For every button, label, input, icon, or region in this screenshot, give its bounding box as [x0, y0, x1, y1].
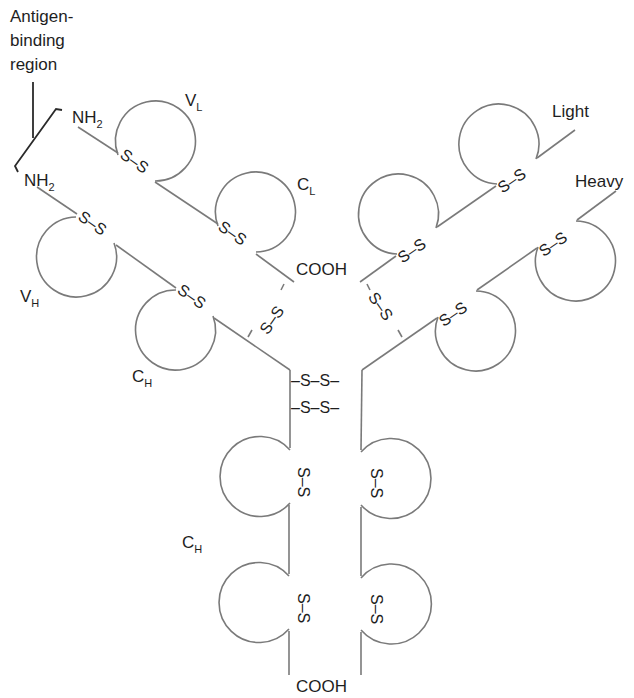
hinge-disulfide-2: –S–S– — [291, 399, 339, 416]
disulfide-vh-left: S–S — [75, 207, 110, 238]
disulfide-ch2-left: S–S — [295, 467, 312, 497]
cl-label: CL — [297, 175, 315, 197]
disulfide-ch3-right: S–S — [368, 594, 385, 624]
left-light-chain: NH2 S–S VL S–S CL — [72, 91, 315, 282]
hinge-disulfide-1: –S–S– — [291, 372, 339, 389]
disulfide-cl-right: S–S — [395, 235, 430, 266]
interchain-disulfide-right: S–S — [365, 284, 402, 337]
cooh-light-label: COOH — [296, 260, 347, 279]
disulfide-vl-right: S–S — [495, 165, 530, 196]
ch1-label: CH — [132, 367, 152, 389]
right-light-chain: Light S–S S–S — [359, 102, 590, 282]
antigen-binding-label-line2: binding — [10, 31, 65, 50]
cooh-heavy-label: COOH — [296, 677, 347, 696]
antibody-diagram: Antigen- binding region NH2 S–S VL S–S C… — [0, 0, 634, 698]
antigen-binding-label-line3: region — [10, 55, 57, 74]
interchain-disulfide-left: S–S — [248, 284, 287, 337]
antigen-binding-bracket — [15, 82, 62, 172]
heavy-label: Heavy — [575, 172, 624, 191]
light-label: Light — [552, 102, 589, 121]
nh2-label-light: NH2 — [72, 108, 103, 130]
svg-text:S–S: S–S — [256, 303, 287, 338]
vh-label: VH — [20, 287, 39, 309]
disulfide-vh-right: S–S — [536, 229, 571, 260]
disulfide-vl-left: S–S — [117, 145, 152, 176]
disulfide-ch1-right: S–S — [436, 299, 471, 330]
nh2-label-heavy: NH2 — [24, 171, 55, 193]
vl-label: VL — [185, 91, 202, 113]
disulfide-ch3-left: S–S — [295, 593, 312, 623]
disulfide-ch1-left: S–S — [175, 281, 210, 312]
svg-text:S–S: S–S — [365, 289, 396, 324]
disulfide-ch2-right: S–S — [368, 468, 385, 498]
antigen-binding-label-line1: Antigen- — [10, 7, 73, 26]
left-heavy-chain: NH2 S–S VH S–S CH S–S S–S CH — [20, 171, 312, 675]
hinge-disulfides: –S–S– –S–S– — [291, 372, 339, 416]
disulfide-cl-left: S–S — [215, 217, 250, 248]
ch23-label: CH — [182, 533, 202, 555]
